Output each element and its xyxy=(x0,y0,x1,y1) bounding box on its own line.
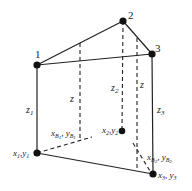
label-node-3: 3 xyxy=(155,42,161,54)
node-bottom-1 xyxy=(33,149,40,156)
edge-z2 xyxy=(122,21,123,131)
label-node-2: 2 xyxy=(128,9,134,21)
solid-edges xyxy=(37,21,153,174)
node-bottom-3 xyxy=(149,170,156,177)
label-x3-y3: x3, y3 xyxy=(157,170,177,181)
label-xB2-yB2: xB2, yB2 xyxy=(146,152,172,164)
label-xB1-yB1: xB1, yB1 xyxy=(50,128,76,140)
label-z-right: z xyxy=(139,79,144,90)
dashed-edges xyxy=(37,21,150,171)
label-z2: z2 xyxy=(110,82,119,95)
label-z1: z1 xyxy=(25,104,33,117)
label-z3: z3 xyxy=(156,104,165,117)
label-x2-y2: x2,y2 xyxy=(101,125,118,136)
edge-2-3 xyxy=(123,21,152,54)
edge-bottom-1-3 xyxy=(37,153,153,174)
edge-z3 xyxy=(152,54,153,174)
nodes xyxy=(33,17,156,177)
node-bottom-2 xyxy=(119,128,126,135)
label-x1-y1: x1,y1 xyxy=(12,148,29,159)
prism-diagram: 1 2 3 z1 z2 z3 z z xB1, yB1 x2,y2 xB2, y… xyxy=(0,0,192,191)
edge-bottom-1-2 xyxy=(37,137,92,153)
label-z-left: z xyxy=(69,93,74,104)
label-node-1: 1 xyxy=(35,48,41,60)
node-1 xyxy=(33,61,40,68)
node-2 xyxy=(119,17,126,24)
